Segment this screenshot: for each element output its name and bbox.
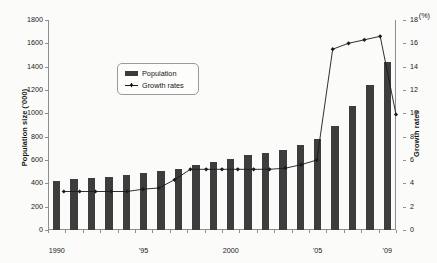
x-tickmark [274, 230, 275, 233]
x-tickmark [135, 230, 136, 233]
x-tickmark [379, 230, 380, 233]
x-tickmark [222, 230, 223, 233]
y-tick-right-0: 0 [410, 225, 436, 234]
growth-marker [78, 189, 82, 193]
growth-marker [299, 163, 303, 167]
growth-marker [125, 189, 129, 193]
y-tick-left-1600: 1600 [17, 38, 43, 47]
x-tickmark [65, 230, 66, 233]
x-tickmark [170, 230, 171, 233]
y-tickmark-right [403, 113, 406, 114]
x-tickmark [309, 230, 310, 233]
growth-marker [62, 189, 66, 193]
legend-label-growth-rates: Growth rates [142, 81, 184, 90]
growth-marker [236, 167, 240, 171]
growth-marker [331, 47, 335, 51]
y-tickmark-right [403, 230, 406, 231]
y-tick-right-2: 2 [410, 202, 436, 211]
x-tickmark [361, 230, 362, 233]
x-tickmark [292, 230, 293, 233]
x-tickmark [344, 230, 345, 233]
y-tick-right-6: 6 [410, 155, 436, 164]
y-tick-left-200: 200 [17, 202, 43, 211]
legend-label-population: Population [142, 69, 177, 78]
y-tick-right-16: 16 [410, 38, 436, 47]
y-tick-left-1000: 1000 [17, 108, 43, 117]
growth-marker [141, 187, 145, 191]
y-tickmark-right [403, 207, 406, 208]
x-tickmark [48, 230, 49, 233]
x-tickmark [326, 230, 327, 233]
y-tick-right-18: 18 [410, 15, 436, 24]
growth-marker [283, 166, 287, 170]
line-diamond-swatch-icon [125, 82, 138, 89]
x-tickmark [187, 230, 188, 233]
y-tick-left-800: 800 [17, 132, 43, 141]
y-tick-left-1200: 1200 [17, 85, 43, 94]
x-tickmark [100, 230, 101, 233]
y-tickmark-right [403, 43, 406, 44]
legend-item-growth-rates: Growth rates [118, 79, 198, 91]
growth-marker [93, 189, 97, 193]
x-tickmark [239, 230, 240, 233]
growth-line-path [64, 36, 396, 191]
legend-item-population: Population [118, 67, 198, 79]
growth-marker [362, 38, 366, 42]
caption-strip [0, 254, 437, 263]
y-tickmark-right [403, 20, 406, 21]
chart-figure: Population size ('000) Growth rates (%) … [0, 0, 437, 263]
growth-marker [315, 158, 319, 162]
y-tick-right-10: 10 [410, 108, 436, 117]
growth-marker [220, 167, 224, 171]
y-tick-left-400: 400 [17, 178, 43, 187]
y-tickmark-right [403, 90, 406, 91]
growth-marker [394, 112, 398, 116]
growth-marker [252, 167, 256, 171]
growth-marker [267, 167, 271, 171]
y-tick-right-12: 12 [410, 85, 436, 94]
y-axis-right-ticks: 181614121086420 [404, 0, 430, 263]
x-tickmark [83, 230, 84, 233]
y-tick-right-8: 8 [410, 132, 436, 141]
y-tickmark-right [403, 183, 406, 184]
y-tickmark-right [403, 137, 406, 138]
x-tickmark [118, 230, 119, 233]
growth-marker [204, 167, 208, 171]
y-tickmark-right [403, 160, 406, 161]
y-tick-right-14: 14 [410, 62, 436, 71]
bar-swatch-icon [125, 71, 138, 76]
y-axis-left-ticks: 180016001400120010008006004002000 [17, 0, 43, 263]
plot-area [48, 20, 396, 230]
y-tick-left-0: 0 [17, 225, 43, 234]
y-tick-right-4: 4 [410, 178, 436, 187]
line-series-growth-rates [48, 20, 396, 230]
y-tick-left-1400: 1400 [17, 62, 43, 71]
growth-marker [346, 41, 350, 45]
chart-legend: Population Growth rates [117, 63, 199, 95]
y-tick-left-600: 600 [17, 155, 43, 164]
y-tickmark-right [403, 67, 406, 68]
x-tickmark [152, 230, 153, 233]
x-tickmark [205, 230, 206, 233]
growth-marker [378, 34, 382, 38]
growth-marker [109, 189, 113, 193]
x-tickmark [257, 230, 258, 233]
y-tick-left-1800: 1800 [17, 15, 43, 24]
growth-marker [157, 186, 161, 190]
x-tickmark [396, 230, 397, 233]
